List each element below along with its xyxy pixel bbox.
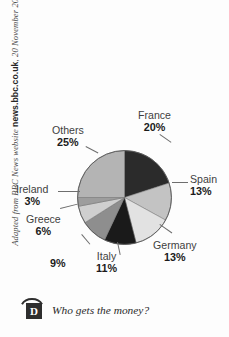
source-credit-site: news.bbc.co.uk <box>10 62 20 127</box>
pie-slice-others <box>78 151 125 198</box>
source-credit-date: , 20 November 2008 <box>10 0 20 62</box>
pie-label-spain-value: 13% <box>190 186 217 198</box>
pie-label-greece: Greece 6% <box>26 214 61 237</box>
pie-label-spain-name: Spain <box>190 174 217 186</box>
pie-label-france: France 20% <box>138 110 171 133</box>
pie-label-ireland: Ireland 3% <box>16 184 48 207</box>
pie-label-germany: Germany 13% <box>153 240 197 263</box>
pie-label-unlabelled: 9% <box>50 258 66 270</box>
footer-question-row: D Who gets the money? <box>24 296 224 328</box>
pie-label-greece-name: Greece <box>26 214 61 226</box>
pie-label-france-value: 20% <box>138 122 171 134</box>
source-credit: Adapted from BBC News website news.bbc.c… <box>0 0 22 337</box>
pie-label-germany-name: Germany <box>153 240 197 252</box>
pie-chart: France 20% Spain 13% Germany 13% Italy 1… <box>20 112 229 292</box>
leader-ireland <box>58 191 80 192</box>
leader-spain <box>172 182 188 183</box>
pie-label-italy-name: Italy <box>96 251 117 263</box>
pie-label-italy: Italy 11% <box>96 251 117 274</box>
pie-svg <box>76 149 173 246</box>
section-badge-d: D <box>26 303 42 319</box>
pie-graphic <box>76 149 173 246</box>
page-root: Adapted from BBC News website news.bbc.c… <box>0 0 229 337</box>
pie-label-italy-value: 11% <box>96 263 117 275</box>
pie-slices <box>78 151 172 245</box>
pie-label-others-name: Others <box>52 125 84 137</box>
pie-label-greece-value: 6% <box>26 226 61 238</box>
pie-label-spain: Spain 13% <box>190 174 217 197</box>
pie-label-ireland-name: Ireland <box>16 184 48 196</box>
footer-question-text: Who gets the money? <box>52 304 149 316</box>
pie-label-france-name: France <box>138 110 171 122</box>
source-credit-text: Adapted from BBC News website news.bbc.c… <box>10 0 20 320</box>
pie-label-others: Others 25% <box>52 125 84 148</box>
leader-france <box>159 134 171 143</box>
pie-label-unlabelled-value: 9% <box>50 258 66 270</box>
pie-label-others-value: 25% <box>52 137 84 149</box>
pie-label-germany-value: 13% <box>153 252 197 264</box>
pie-label-ireland-value: 3% <box>16 196 48 208</box>
